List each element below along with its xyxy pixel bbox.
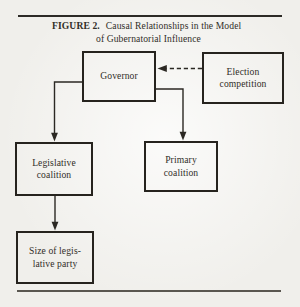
node-legislative-coalition: Legislative coalition bbox=[15, 142, 93, 196]
node-size-of-legislative-party-label-line2: lative party bbox=[33, 258, 78, 271]
edge-legislative-to-size-arrowhead bbox=[52, 222, 59, 231]
edge-governor-to-legislative-line bbox=[55, 82, 83, 134]
node-election-competition: Election competition bbox=[202, 52, 284, 104]
node-primary-coalition-label-line1: Primary bbox=[165, 154, 197, 167]
node-election-competition-label-line2: competition bbox=[220, 78, 267, 91]
node-primary-coalition: Primary coalition bbox=[144, 141, 218, 192]
scanned-figure: FIGURE 2.Causal Relationships in the Mod… bbox=[0, 0, 300, 307]
node-size-of-legislative-party-label-line1: Size of legis- bbox=[29, 245, 81, 258]
edge-governor-to-legislative-arrowhead bbox=[51, 133, 58, 142]
node-size-of-legislative-party: Size of legis- lative party bbox=[16, 231, 94, 284]
node-legislative-coalition-label-line2: coalition bbox=[37, 169, 71, 182]
edge-election-to-governor-arrowhead bbox=[158, 65, 167, 72]
node-governor-label: Governor bbox=[100, 70, 138, 83]
node-legislative-coalition-label-line1: Legislative bbox=[32, 157, 76, 170]
node-primary-coalition-label-line2: coalition bbox=[164, 167, 198, 180]
edge-governor-to-primary-arrowhead bbox=[180, 132, 187, 141]
node-election-competition-label-line1: Election bbox=[227, 66, 260, 79]
edge-governor-to-primary-line bbox=[156, 89, 183, 133]
node-governor: Governor bbox=[82, 51, 156, 102]
